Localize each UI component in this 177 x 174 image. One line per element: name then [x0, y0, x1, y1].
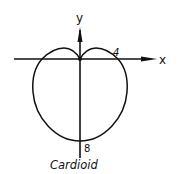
origin-point — [78, 57, 82, 61]
x-axis-arrow-icon — [141, 57, 157, 62]
y-axis-arrow-icon — [78, 27, 83, 42]
y-axis — [78, 27, 83, 158]
y-intercept-label: 8 — [84, 143, 90, 154]
x-intercept-label: 4 — [113, 47, 119, 58]
figure-caption: Cardioid — [50, 158, 99, 172]
x-axis — [14, 57, 157, 62]
y-axis-label: y — [76, 11, 83, 25]
x-axis-label: x — [159, 53, 166, 67]
cardioid-diagram: x y 4 8 Cardioid — [0, 0, 177, 174]
